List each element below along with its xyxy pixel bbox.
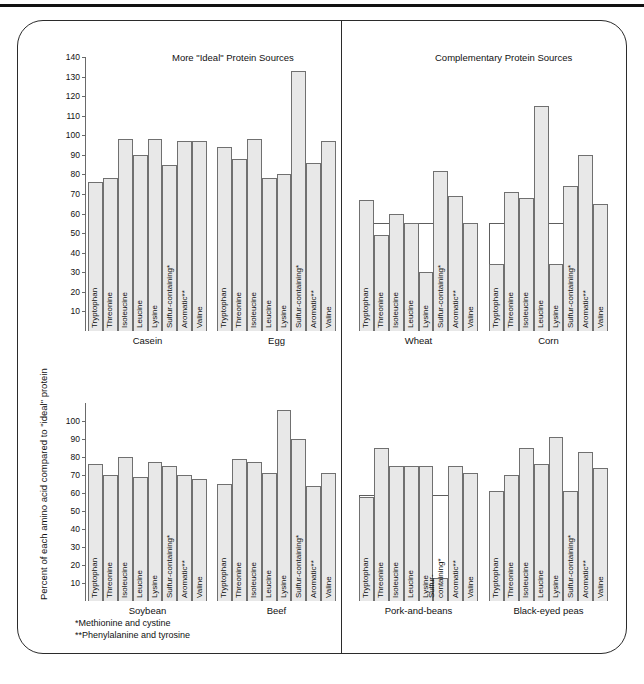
bar-label: Threonine — [377, 562, 385, 598]
bar-label: Aromatic** — [452, 290, 460, 328]
bar-group-pork-and-beans: TryptophanThreonineIsoleucineLeucineLysi… — [359, 403, 478, 601]
y-axis-tick-label: 10 — [71, 307, 80, 316]
bar-label: Tryptophan — [492, 558, 500, 598]
bar-label: Tryptophan — [91, 288, 99, 328]
bar-label: Lysine — [552, 305, 560, 328]
bar-label: Threonine — [106, 292, 114, 328]
group-name: Wheat — [359, 335, 478, 346]
y-axis-tick — [82, 272, 86, 273]
bar-label: Tryptophan — [362, 288, 370, 328]
y-axis-tick-label: 60 — [71, 489, 80, 498]
footnote-2: **Phenylalanine and tyrosine — [75, 629, 190, 641]
y-axis-tick — [82, 511, 86, 512]
y-axis-tick-label: 20 — [71, 288, 80, 297]
y-axis-tick — [82, 421, 86, 422]
bar-label: Lysine — [422, 305, 430, 328]
bar-label: Leucine — [136, 570, 144, 598]
bar-label: Threonine — [507, 562, 515, 598]
y-axis-tick-label: 30 — [71, 268, 80, 277]
bar-label: Lysine — [280, 305, 288, 328]
bar-group-wheat: TryptophanThreonineIsoleucineLeucineLysi… — [359, 57, 478, 331]
bar-label: Threonine — [377, 292, 385, 328]
bar-label: Aromatic** — [310, 560, 318, 598]
bar-label: Isoleucine — [522, 292, 530, 328]
bar-label: Sulfur-containing* — [567, 265, 575, 328]
y-axis-tick-label: 50 — [71, 507, 80, 516]
panel-divider — [341, 20, 342, 654]
y-axis-tick — [82, 96, 86, 97]
bar-label: Valine — [597, 576, 605, 598]
bar-label: Leucine — [265, 570, 273, 598]
y-axis-tick — [82, 116, 86, 117]
bar-label: Aromatic** — [310, 290, 318, 328]
footnote-1: *Methionine and cystine — [75, 617, 190, 629]
figure-page: Percent of each amino acid compared to "… — [0, 0, 644, 684]
group-name: Soybean — [88, 605, 207, 616]
bar-label: Valine — [325, 306, 333, 328]
y-axis-tick-label: 20 — [71, 561, 80, 570]
bar-label: Lysine — [151, 305, 159, 328]
bar-label: Valine — [467, 306, 475, 328]
y-axis-tick — [82, 583, 86, 584]
bar-label: Isoleucine — [250, 292, 258, 328]
group-name: Beef — [217, 605, 336, 616]
y-axis-tick-label: 100 — [66, 131, 80, 140]
y-axis-tick-label: 140 — [66, 53, 80, 62]
bar-label: Leucine — [136, 300, 144, 328]
bar-label: Threonine — [106, 562, 114, 598]
bar-label: Lysine — [552, 575, 560, 598]
y-axis-tick — [82, 233, 86, 234]
y-axis-tick-label: 90 — [71, 151, 80, 160]
y-axis-tick-label: 30 — [71, 543, 80, 552]
bar-label: Tryptophan — [220, 558, 228, 598]
bar-label: Sulfur-containing* — [166, 265, 174, 328]
y-axis-tick — [82, 457, 86, 458]
bar-label: Aromatic** — [582, 560, 590, 598]
y-axis-tick-label: 70 — [71, 471, 80, 480]
y-axis-tick — [82, 174, 86, 175]
y-axis-tick-label: 40 — [71, 525, 80, 534]
bar-label: Leucine — [407, 300, 415, 328]
bar-group-black-eyed-peas: TryptophanThreonineIsoleucineLeucineLysi… — [489, 403, 608, 601]
bar-label: Valine — [597, 306, 605, 328]
y-axis-top: 102030405060708090100110120130140 — [46, 57, 86, 331]
bar-label: Isoleucine — [392, 292, 400, 328]
y-axis-tick-label: 130 — [66, 72, 80, 81]
y-axis-tick — [82, 493, 86, 494]
y-axis-tick — [82, 565, 86, 566]
group-name: Casein — [88, 335, 207, 346]
y-axis-tick-label: 90 — [71, 435, 80, 444]
y-axis-tick-label: 120 — [66, 92, 80, 101]
bar-label: Sulfur-containing* — [437, 265, 445, 328]
bar-label: Isoleucine — [121, 562, 129, 598]
y-axis-tick — [82, 77, 86, 78]
bar-label: Sulfur-containing* — [428, 554, 445, 598]
y-axis-tick — [82, 135, 86, 136]
bar-group-beef: TryptophanThreonineIsoleucineLeucineLysi… — [217, 403, 336, 601]
bar-label: Valine — [196, 576, 204, 598]
group-name: Pork-and-beans — [359, 605, 478, 616]
bar — [534, 106, 549, 331]
y-axis-tick — [82, 194, 86, 195]
y-axis-tick — [82, 529, 86, 530]
bar-group-casein: TryptophanThreonineIsoleucineLeucineLysi… — [88, 57, 207, 331]
y-axis-bottom: 102030405060708090100 — [46, 403, 86, 601]
bar-group-egg: TryptophanThreonineIsoleucineLeucineLysi… — [217, 57, 336, 331]
bar-label: Threonine — [507, 292, 515, 328]
y-axis-tick-label: 80 — [71, 170, 80, 179]
group-name: Egg — [217, 335, 336, 346]
bar-label: Aromatic** — [582, 290, 590, 328]
bar — [277, 410, 292, 601]
bar-label: Aromatic** — [452, 560, 460, 598]
y-axis-tick — [82, 155, 86, 156]
bar-label: Threonine — [235, 292, 243, 328]
y-axis-tick-label: 40 — [71, 248, 80, 257]
bar-label: Tryptophan — [91, 558, 99, 598]
bar-label: Aromatic** — [181, 560, 189, 598]
y-axis-tick — [82, 547, 86, 548]
y-axis-tick — [82, 311, 86, 312]
y-axis-tick-label: 100 — [66, 417, 80, 426]
bar-label: Sulfur-containing* — [166, 535, 174, 598]
bar-label: Tryptophan — [220, 288, 228, 328]
bar-label: Lysine — [151, 575, 159, 598]
